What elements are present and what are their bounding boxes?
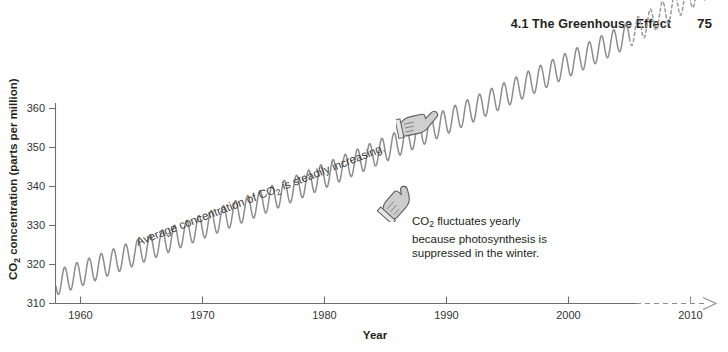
y-tick-label: 350 — [27, 141, 45, 153]
x-tick-label: 1960 — [68, 309, 92, 321]
seasonal-annotation-text: CO2 fluctuates yearly because photosynth… — [412, 214, 582, 261]
y-tick-label: 310 — [27, 297, 45, 309]
trend-annotation-text: Average concentration of CO2 is steadily… — [134, 142, 387, 251]
x-axis-title: Year — [363, 329, 388, 341]
y-tick-label: 340 — [27, 180, 45, 192]
y-tick-label: 330 — [27, 219, 45, 231]
seasonal-annotation-line-2: because photosynthesis is — [412, 232, 582, 247]
y-tick-label: 360 — [27, 102, 45, 114]
y-tick-label: 320 — [27, 258, 45, 270]
x-tick-label: 1980 — [312, 309, 336, 321]
x-tick-label: 2010 — [678, 309, 702, 321]
y-axis-title: CO2 concentration (parts per million) — [7, 78, 22, 280]
co2-projected-line — [630, 0, 705, 45]
seasonal-annotation-line-1: CO2 fluctuates yearly — [412, 214, 582, 232]
y-axis-ticks: 310 320 330 340 350 360 — [27, 102, 56, 309]
pointing-hand-up-left-icon — [376, 182, 416, 226]
x-tick-label: 1970 — [190, 309, 214, 321]
x-axis-arrow-icon — [703, 298, 716, 310]
page-root: 4.1 The Greenhouse Effect 75 CO2 concent… — [0, 0, 728, 352]
x-tick-label: 1990 — [434, 309, 458, 321]
keeling-curve-figure: CO2 concentration (parts per million) 31… — [0, 0, 728, 352]
x-axis-ticks: 1960 1970 1980 1990 2000 2010 — [68, 297, 702, 322]
co2-line-chart: CO2 concentration (parts per million) 31… — [0, 0, 728, 352]
pointing-hand-right-icon — [396, 104, 442, 144]
seasonal-annotation-line-3: suppressed in the winter. — [412, 246, 582, 261]
x-tick-label: 2000 — [556, 309, 580, 321]
